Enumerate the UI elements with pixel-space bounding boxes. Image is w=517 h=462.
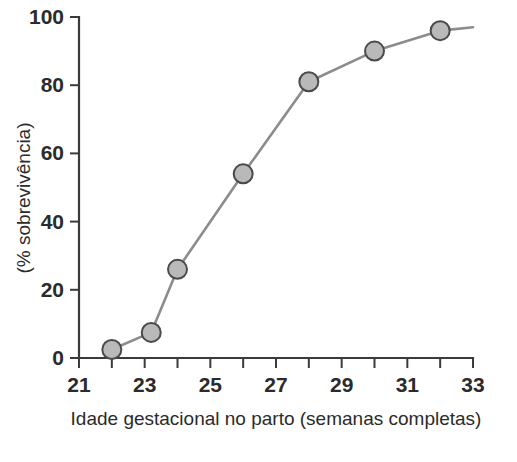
x-tick-label: 25 (199, 373, 223, 396)
y-axis-tick-labels: 020406080100 (29, 5, 64, 369)
y-tick-label: 60 (41, 141, 64, 164)
x-tick-label: 33 (461, 373, 484, 396)
data-point-marker (365, 42, 384, 61)
data-point-marker (234, 164, 253, 183)
y-axis-ticks (70, 17, 79, 358)
x-axis-tick-labels: 21232527293133 (67, 373, 484, 396)
data-point-marker (431, 21, 450, 40)
survival-data-points (102, 21, 449, 359)
x-axis-title: Idade gestacional no parto (semanas comp… (71, 408, 482, 429)
y-tick-label: 20 (41, 278, 64, 301)
data-point-marker (102, 340, 121, 359)
survival-curve (112, 27, 473, 349)
x-axis-ticks (79, 358, 473, 368)
chart-page: 020406080100 21232527293133 Idade gestac… (0, 0, 517, 462)
survival-by-gestational-age-chart: 020406080100 21232527293133 Idade gestac… (0, 0, 517, 462)
x-tick-label: 27 (264, 373, 287, 396)
page-caption-fragment (16, 448, 256, 458)
x-tick-label: 21 (67, 373, 91, 396)
data-point-marker (299, 72, 318, 91)
y-tick-label: 0 (52, 346, 64, 369)
y-axis-title: (% sobrevivência) (13, 123, 34, 274)
y-tick-label: 40 (41, 210, 64, 233)
data-point-marker (168, 260, 187, 279)
data-point-marker (142, 323, 161, 342)
y-tick-label: 100 (29, 5, 64, 28)
x-tick-label: 29 (330, 373, 353, 396)
x-tick-label: 31 (396, 373, 420, 396)
x-tick-label: 23 (133, 373, 156, 396)
y-tick-label: 80 (41, 73, 64, 96)
